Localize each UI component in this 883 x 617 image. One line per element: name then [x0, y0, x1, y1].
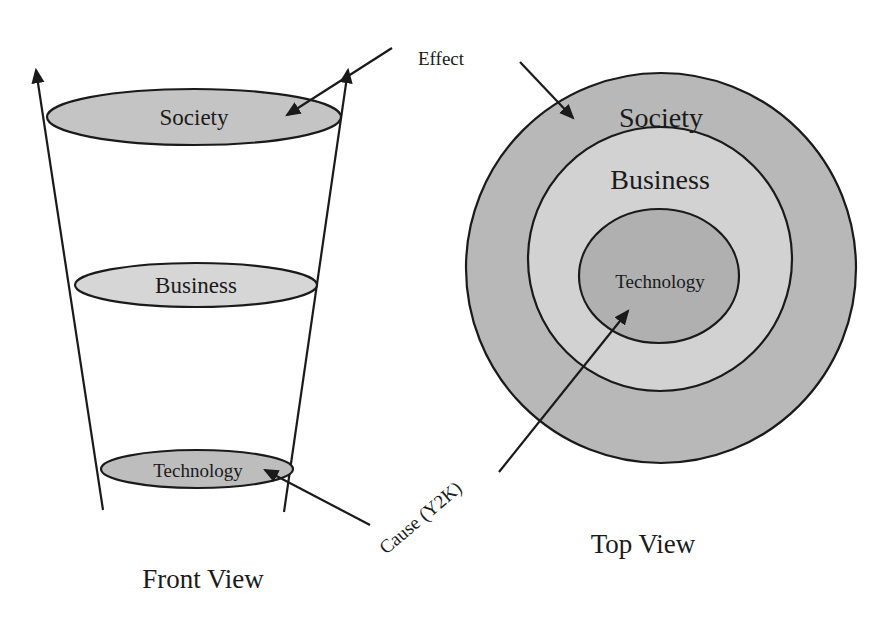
cause-arrow-front	[265, 470, 370, 525]
front-business-label: Business	[155, 273, 237, 298]
effect-arrow-front	[287, 48, 392, 115]
front-society-label: Society	[160, 105, 229, 130]
front-view-caption: Front View	[142, 564, 264, 594]
top-business-label: Business	[610, 164, 710, 195]
top-view-caption: Top View	[591, 529, 696, 559]
top-view: Society Business Technology Top View	[466, 73, 856, 559]
front-view: Society Business Technology Front View	[36, 70, 348, 594]
top-society-label: Society	[619, 102, 703, 133]
effect-label: Effect	[418, 48, 465, 69]
diagram-canvas: Society Business Technology Front View S…	[0, 0, 883, 617]
front-technology-label: Technology	[153, 460, 243, 481]
top-technology-label: Technology	[615, 271, 705, 292]
cause-label: Cause (Y2K)	[375, 477, 466, 559]
